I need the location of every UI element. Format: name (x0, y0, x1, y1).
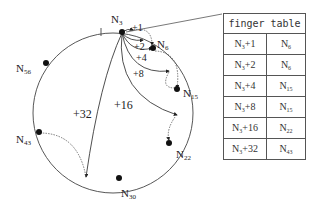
finger-key: N3+1 (224, 34, 267, 55)
node-label-n15: N15 (183, 88, 198, 101)
edge-label-plus4: +4 (136, 53, 147, 63)
finger-key: N3+2 (224, 55, 267, 76)
ring-circle (33, 33, 193, 193)
edge-label-plus1: +1 (132, 23, 143, 33)
edge-label-plus8: +8 (133, 69, 144, 79)
table-row: N3+32 N43 (224, 139, 306, 160)
finger-successor: N6 (267, 34, 306, 55)
node-n6 (150, 45, 156, 51)
node-n3 (119, 29, 125, 35)
node-n56 (43, 60, 49, 66)
finger-successor: N22 (267, 118, 306, 139)
finger-key: N3+8 (224, 97, 267, 118)
finger-key: N3+4 (224, 76, 267, 97)
node-label-n22: N22 (176, 149, 191, 162)
finger-successor: N15 (267, 97, 306, 118)
node-label-n43: N43 (16, 134, 31, 147)
finger-table-header: finger table (224, 14, 306, 34)
table-row: N3+4 N15 (224, 76, 306, 97)
finger-key: N3+16 (224, 118, 267, 139)
node-label-n30: N30 (121, 188, 136, 201)
edge-label-plus16: +16 (114, 99, 133, 111)
node-label-n56: N56 (16, 63, 31, 76)
edge-label-plus32: +32 (73, 108, 92, 120)
node-label-n6: N6 (157, 39, 168, 52)
node-n30 (116, 175, 122, 181)
table-row: N3+8 N15 (224, 97, 306, 118)
edge-label-plus2: +2 (134, 42, 145, 52)
node-n43 (36, 129, 42, 135)
table-row: N3+1 N6 (224, 34, 306, 55)
finger-successor: N43 (267, 139, 306, 160)
finger-key: N3+32 (224, 139, 267, 160)
node-n22 (166, 140, 172, 146)
node-n15 (174, 86, 180, 92)
node-label-n3: N3 (111, 14, 122, 27)
finger-successor: N6 (267, 55, 306, 76)
finger-successor: N15 (267, 76, 306, 97)
table-row: N3+2 N6 (224, 55, 306, 76)
finger-table: finger table N3+1 N6 N3+2 N6 N3+4 N15 N3… (223, 13, 306, 160)
table-row: N3+16 N22 (224, 118, 306, 139)
